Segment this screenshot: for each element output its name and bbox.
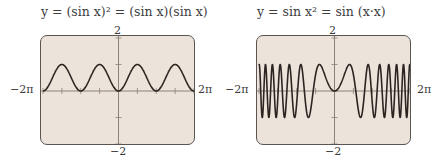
panel-right: y = sin x² = sin (x·x) 2 −2 −2π 2π — [222, 0, 445, 167]
y-min-label: −2 — [110, 145, 126, 158]
plot-area — [257, 36, 411, 145]
x-max-label: 2π — [417, 83, 431, 96]
panel-left: y = (sin x)² = (sin x)(sin x) 2 −2 −2π 2… — [0, 0, 222, 167]
chart-title: y = sin x² = sin (x·x) — [257, 4, 386, 19]
x-max-label: 2π — [198, 83, 212, 96]
calculator-screen — [40, 35, 195, 145]
calculator-screen — [256, 35, 411, 145]
x-min-label: −2π — [10, 83, 33, 96]
chart-title: y = (sin x)² = (sin x)(sin x) — [41, 4, 208, 19]
plot-area — [41, 36, 195, 145]
x-min-label: −2π — [225, 83, 248, 96]
y-min-label: −2 — [325, 145, 341, 158]
